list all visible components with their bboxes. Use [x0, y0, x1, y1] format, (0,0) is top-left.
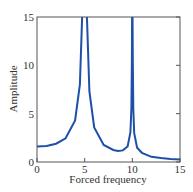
- y-tick-label: 10: [23, 59, 35, 71]
- y-ticks: 051015: [23, 11, 180, 168]
- amplitude-curve: [37, 12, 180, 159]
- x-tick-label: 15: [175, 163, 187, 175]
- chart: 051015 051015 Forced frequency Amplitude: [0, 0, 193, 192]
- x-tick-label: 0: [34, 163, 40, 175]
- y-tick-label: 5: [29, 108, 35, 120]
- plot-frame: [37, 17, 180, 162]
- y-axis-label: Amplitude: [7, 65, 19, 112]
- y-tick-label: 15: [23, 11, 35, 23]
- x-axis-label: Forced frequency: [69, 173, 147, 185]
